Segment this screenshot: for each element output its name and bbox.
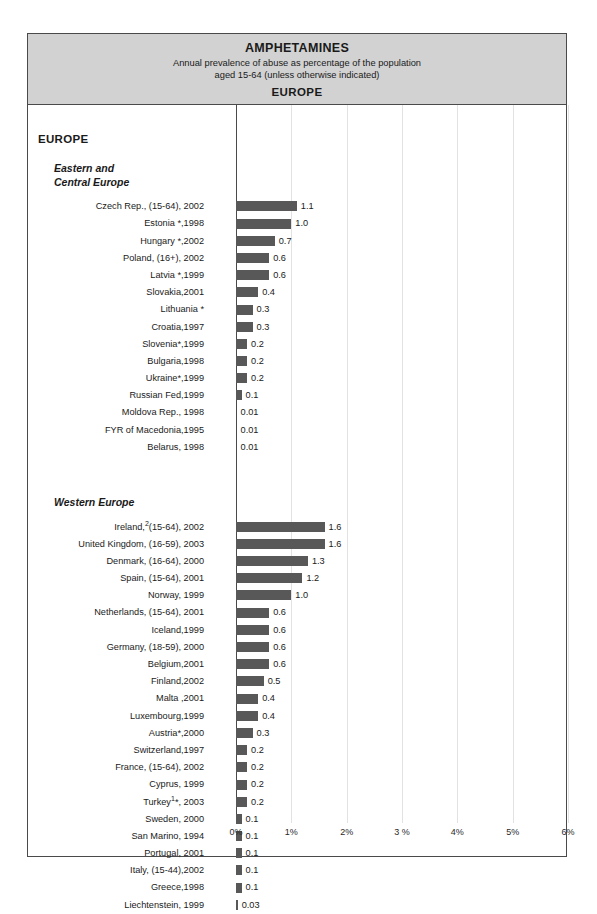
bar-row: United Kingdom, (16-59), 20031.6 xyxy=(28,536,566,553)
bar-row: Moldova Rep., 19980.01 xyxy=(28,404,566,421)
bar-value-label: 1.0 xyxy=(295,588,308,602)
bar-row-label: Croatia,1997 xyxy=(151,320,204,334)
bar xyxy=(236,522,325,532)
bar xyxy=(236,659,269,669)
bar-row: Austria*,20000.3 xyxy=(28,725,566,742)
bar-row: Russian Fed,19990.1 xyxy=(28,387,566,404)
bar xyxy=(236,356,247,366)
bar-row-label: United Kingdom, (16-59), 2003 xyxy=(78,537,204,551)
bar xyxy=(236,339,247,349)
bar-row: Belarus, 19980.01 xyxy=(28,439,566,456)
bar-row-label: Denmark, (16-64), 2000 xyxy=(106,554,204,568)
bar-value-label: 0.2 xyxy=(251,337,264,351)
bar-row: Italy, (15-44),20020.1 xyxy=(28,862,566,879)
plot-body: EUROPEEastern andCentral EuropeCzech Rep… xyxy=(28,105,566,858)
bar xyxy=(236,780,247,790)
bar-value-label: 0.03 xyxy=(242,898,260,912)
bar-row: Iceland,19990.6 xyxy=(28,622,566,639)
bar-row-label: Moldova Rep., 1998 xyxy=(122,405,204,419)
bar-value-label: 0.2 xyxy=(251,743,264,757)
bar-row-label: Iceland,1999 xyxy=(151,623,204,637)
bar xyxy=(236,848,242,858)
bar-row-label: Ukraine*,1999 xyxy=(146,371,204,385)
bar-row: Germany, (18-59), 20000.6 xyxy=(28,639,566,656)
bar-row-label: France, (15-64), 2002 xyxy=(115,760,204,774)
bar-row: Poland, (16+), 20020.6 xyxy=(28,250,566,267)
bar xyxy=(236,608,269,618)
bar-row-label: Netherlands, (15-64), 2001 xyxy=(94,605,204,619)
bar xyxy=(236,745,247,755)
bar-row-label: Liechtenstein, 1999 xyxy=(124,898,204,912)
bar-row: Czech Rep., (15-64), 20021.1 xyxy=(28,198,566,215)
bar xyxy=(236,539,325,549)
group1-gap xyxy=(28,189,566,198)
bar-row-label: Czech Rep., (15-64), 2002 xyxy=(96,199,204,213)
bar xyxy=(236,305,253,315)
bar-row-label: Austria*,2000 xyxy=(149,726,204,740)
chart-subtitle: Annual prevalence of abuse as percentage… xyxy=(34,58,560,81)
bar-value-label: 0.6 xyxy=(273,640,286,654)
bar-value-label: 1.6 xyxy=(329,520,342,534)
bar-value-label: 0.7 xyxy=(279,234,292,248)
bar-row: Switzerland,19970.2 xyxy=(28,742,566,759)
bar-value-label: 0.2 xyxy=(251,795,264,809)
bar-value-label: 0.5 xyxy=(268,674,281,688)
bar-value-label: 0.3 xyxy=(257,302,270,316)
bar-row-label: Lithuania * xyxy=(161,302,204,316)
bar-row-label: Germany, (18-59), 2000 xyxy=(107,640,204,654)
between-groups-spacer-2 xyxy=(28,482,566,496)
bar-value-label: 0.4 xyxy=(262,691,275,705)
bar-value-label: 0.2 xyxy=(251,777,264,791)
bar-value-label: 1.2 xyxy=(306,571,319,585)
group-heading-western-europe: Western Europe xyxy=(28,496,566,510)
bar-row-label: Italy, (15-44),2002 xyxy=(130,863,204,877)
bar xyxy=(236,694,258,704)
bar-row-label: Belarus, 1998 xyxy=(147,440,204,454)
bar-value-label: 0.2 xyxy=(251,760,264,774)
bar-value-label: 0.2 xyxy=(251,354,264,368)
bar-row-label: Russian Fed,1999 xyxy=(129,388,204,402)
bar-value-label: 0.1 xyxy=(246,846,259,860)
bar xyxy=(236,573,302,583)
bar-value-label: 1.1 xyxy=(301,199,314,213)
chart-header-band: AMPHETAMINES Annual prevalence of abuse … xyxy=(28,34,566,105)
bar-row: Cyprus, 19990.2 xyxy=(28,776,566,793)
bar-row: Greece,19980.1 xyxy=(28,879,566,896)
x-tick-label: 0% xyxy=(229,827,242,837)
bar xyxy=(236,322,253,332)
group-heading-line-1: Eastern and xyxy=(28,162,566,176)
bar xyxy=(236,900,238,910)
bar-value-label: 0.1 xyxy=(246,388,259,402)
bar-row: Denmark, (16-64), 20001.3 xyxy=(28,553,566,570)
bar-value-label: 0.01 xyxy=(241,440,259,454)
bar-row-label: Finland,2002 xyxy=(151,674,204,688)
bar xyxy=(236,728,253,738)
bar xyxy=(236,556,308,566)
bar-value-label: 0.3 xyxy=(257,726,270,740)
bar xyxy=(236,797,247,807)
bar-row: Spain, (15-64), 20011.2 xyxy=(28,570,566,587)
bar-value-label: 1.6 xyxy=(329,537,342,551)
bar-row-label: Estonia *,1998 xyxy=(144,216,204,230)
bar-value-label: 0.6 xyxy=(273,657,286,671)
bar-row: Portugal, 20010.1 xyxy=(28,845,566,862)
bar-row-label: Bulgaria,1998 xyxy=(147,354,204,368)
bar-row: Netherlands, (15-64), 20010.6 xyxy=(28,604,566,621)
bar-row: Latvia *,19990.6 xyxy=(28,267,566,284)
chart-subtitle-line-1: Annual prevalence of abuse as percentage… xyxy=(34,58,560,70)
group-heading-line-2: Central Europe xyxy=(28,176,566,190)
bar-value-label: 0.01 xyxy=(241,405,259,419)
bar-row: France, (15-64), 20020.2 xyxy=(28,759,566,776)
bar-row-label: Portugal, 2001 xyxy=(144,846,204,860)
bar xyxy=(236,373,247,383)
x-tick-label: 4% xyxy=(451,827,464,837)
gridline-6pct xyxy=(568,105,569,823)
bar-row: Bulgaria,19980.2 xyxy=(28,353,566,370)
bar xyxy=(236,676,264,686)
x-tick-label: 1% xyxy=(285,827,298,837)
bar-row-label: Poland, (16+), 2002 xyxy=(123,251,204,265)
bar-value-label: 1.0 xyxy=(295,216,308,230)
bar xyxy=(236,642,269,652)
bar-value-label: 0.3 xyxy=(257,320,270,334)
x-axis: 0%1%2%3 %4%5%6% xyxy=(28,823,566,845)
